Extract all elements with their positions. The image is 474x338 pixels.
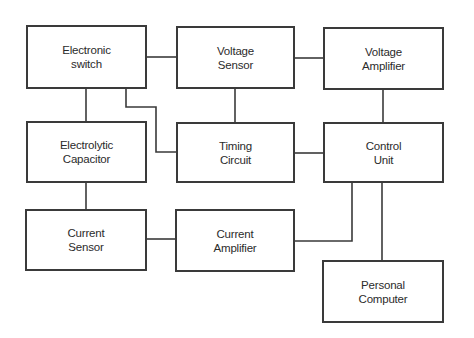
block-label: Electronic switch bbox=[62, 43, 111, 71]
block-label: Timing Circuit bbox=[219, 139, 252, 167]
block-voltage-sensor: Voltage Sensor bbox=[176, 26, 295, 89]
block-label: Voltage Amplifier bbox=[362, 45, 405, 73]
block-personal-computer: Personal Computer bbox=[322, 260, 444, 323]
block-label: Current Amplifier bbox=[214, 227, 257, 255]
block-current-sensor: Current Sensor bbox=[25, 209, 147, 271]
block-timing-circuit: Timing Circuit bbox=[176, 122, 295, 183]
block-current-amplifier: Current Amplifier bbox=[175, 209, 295, 272]
block-electrolytic-capacitor: Electrolytic Capacitor bbox=[26, 121, 147, 183]
block-control-unit: Control Unit bbox=[323, 122, 444, 183]
block-label: Control Unit bbox=[366, 139, 402, 167]
block-voltage-amplifier: Voltage Amplifier bbox=[323, 27, 444, 90]
connector-current-amplifier-control-unit bbox=[294, 182, 352, 241]
block-label: Electrolytic Capacitor bbox=[60, 138, 113, 166]
block-label: Current Sensor bbox=[68, 226, 105, 254]
block-label: Voltage Sensor bbox=[217, 44, 254, 72]
block-diagram: Electronic switch Voltage Sensor Voltage… bbox=[0, 0, 474, 338]
block-label: Personal Computer bbox=[359, 278, 408, 306]
block-electronic-switch: Electronic switch bbox=[26, 25, 147, 89]
